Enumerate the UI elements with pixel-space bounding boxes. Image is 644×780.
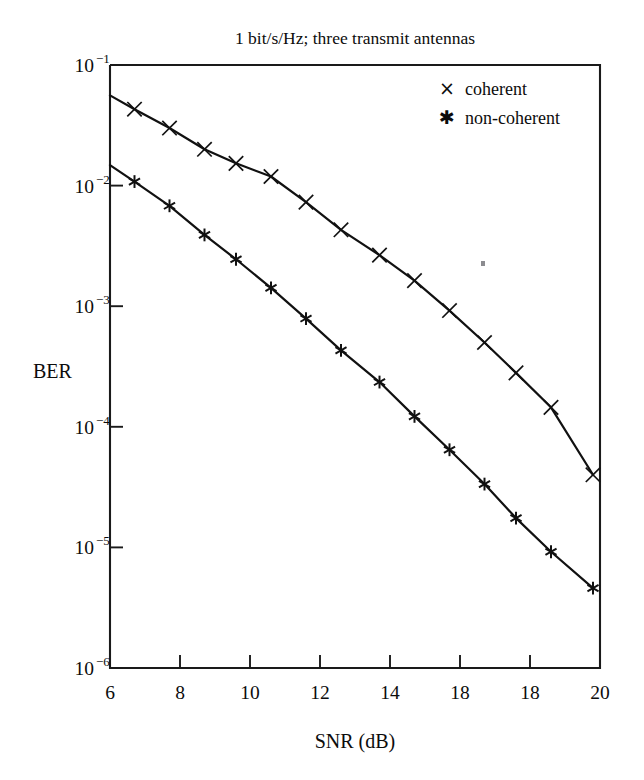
x-axis-title: SNR (dB) — [315, 730, 396, 753]
y-tick-label: 10−3 — [75, 292, 110, 317]
y-tick-label-exponent: −2 — [96, 172, 110, 187]
data-point-marker-coherent — [477, 335, 491, 349]
y-tick-label-exponent: −5 — [96, 533, 110, 548]
data-series-layer — [110, 95, 600, 594]
y-axis-title: BER — [33, 360, 73, 382]
legend-marker-coherent-icon: × — [439, 77, 455, 99]
scan-artifact-speck — [481, 261, 485, 266]
x-tick-label: 14 — [380, 682, 400, 703]
x-tick-label: 20 — [590, 682, 610, 703]
data-point-marker-coherent — [442, 303, 456, 317]
y-tick-label-exponent: −4 — [96, 413, 110, 428]
y-tick-label-base: 10 — [75, 296, 95, 317]
y-tick-label-base: 10 — [75, 176, 95, 197]
data-point-marker-coherent — [197, 142, 211, 156]
data-point-marker-coherent — [162, 121, 176, 135]
y-tick-label: 10−1 — [75, 51, 110, 76]
data-point-marker-coherent — [299, 195, 313, 209]
data-point-marker-coherent — [127, 102, 141, 116]
data-point-marker-coherent — [334, 223, 348, 237]
x-tick-label: 6 — [105, 682, 115, 703]
y-tick-label-exponent: −6 — [96, 654, 110, 669]
x-tick-label: 18 — [520, 682, 540, 703]
x-tick-label: 8 — [175, 682, 185, 703]
data-point-marker-non-coherent — [129, 175, 140, 188]
y-tick-label: 10−5 — [75, 533, 110, 558]
plot-frame-border — [110, 65, 600, 668]
y-tick-label-base: 10 — [75, 658, 95, 679]
data-point-marker-coherent — [372, 248, 386, 262]
y-tick-label-base: 10 — [75, 55, 95, 76]
x-tick-label: 12 — [310, 682, 330, 703]
data-point-marker-coherent — [407, 273, 421, 287]
chart-canvas: 1 bit/s/Hz; three transmit antennas 10−1… — [0, 0, 644, 780]
series-coherent — [110, 95, 600, 482]
chart-title: 1 bit/s/Hz; three transmit antennas — [235, 28, 475, 48]
y-tick-label: 10−6 — [75, 654, 111, 679]
x-tick-label: 18 — [450, 682, 470, 703]
series-non-coherent — [110, 165, 599, 594]
y-tick-label: 10−2 — [75, 172, 110, 197]
x-tick-label: 10 — [240, 682, 260, 703]
legend-marker-non-coherent-icon: ✱ — [439, 106, 455, 128]
series-line-coherent — [110, 95, 593, 474]
legend-label-non-coherent: non-coherent — [465, 108, 560, 128]
chart-legend: × coherent ✱ non-coherent — [439, 77, 560, 128]
data-point-marker-coherent — [586, 468, 600, 482]
y-axis-tick-labels: 10−110−210−310−410−510−6 — [75, 51, 111, 679]
y-tick-label-base: 10 — [75, 417, 95, 438]
y-tick-label: 10−4 — [75, 413, 111, 438]
x-axis-ticks — [110, 646, 600, 668]
ber-vs-snr-chart-figure: 1 bit/s/Hz; three transmit antennas 10−1… — [0, 0, 644, 780]
data-point-marker-coherent — [229, 156, 243, 170]
data-point-marker-coherent — [264, 169, 278, 183]
y-tick-label-base: 10 — [75, 537, 95, 558]
data-point-marker-coherent — [544, 400, 558, 414]
y-tick-label-exponent: −3 — [96, 292, 110, 307]
y-axis-ticks — [110, 65, 123, 668]
y-tick-label-exponent: −1 — [96, 51, 110, 66]
x-axis-tick-labels: 68101214181820 — [105, 682, 610, 703]
legend-label-coherent: coherent — [465, 79, 527, 99]
data-point-marker-coherent — [509, 366, 523, 380]
